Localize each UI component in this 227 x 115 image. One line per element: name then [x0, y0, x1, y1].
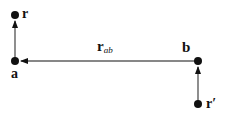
label-a: a	[11, 66, 18, 81]
label-b: b	[182, 39, 190, 55]
point-b	[194, 57, 202, 65]
point-r	[11, 11, 19, 19]
point-a	[11, 57, 19, 65]
label-r-prime: r′	[206, 96, 216, 111]
vector-diagram: r a b r′ rab	[0, 0, 227, 115]
point-r-prime	[194, 100, 202, 108]
label-r: r	[22, 6, 28, 21]
label-r-ab: rab	[97, 38, 113, 55]
